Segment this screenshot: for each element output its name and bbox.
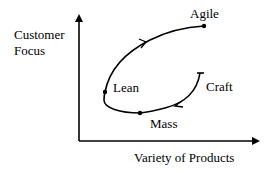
y-axis-label-line1: Customer [14, 27, 65, 42]
mass-label: Mass [150, 116, 177, 131]
y-axis-label-line2: Focus [14, 43, 45, 58]
x-axis-label: Variety of Products [134, 150, 234, 165]
mass-point [138, 111, 142, 115]
lean-label: Lean [113, 80, 139, 95]
agile-point [202, 24, 206, 28]
agile-label: Agile [190, 6, 219, 21]
craft-label: Craft [206, 79, 233, 94]
evolution-curve [104, 26, 204, 113]
lean-point [103, 90, 107, 94]
